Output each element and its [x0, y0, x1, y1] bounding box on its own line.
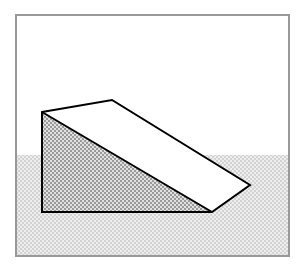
figure-container: Wedge / inclined ramp partially submerge… — [0, 0, 304, 270]
wedge-figure — [0, 0, 304, 270]
